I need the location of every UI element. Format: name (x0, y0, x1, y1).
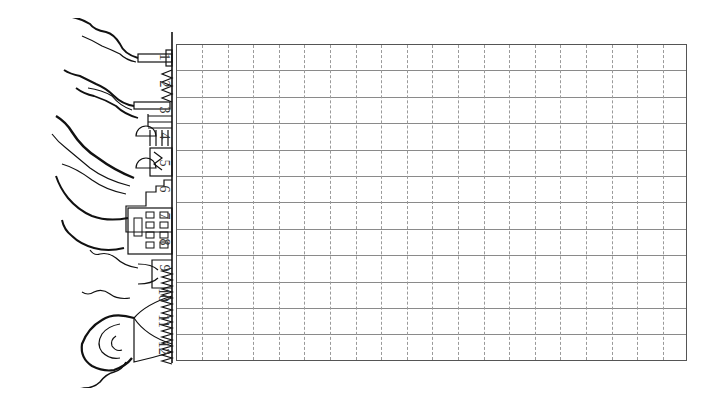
column-line (612, 45, 613, 360)
column-line (432, 45, 433, 360)
column-line (304, 45, 305, 360)
row-number-label: 10 (150, 282, 176, 308)
column-line (509, 45, 510, 360)
column-line (279, 45, 280, 360)
row-number-label: 7 (150, 202, 176, 228)
row-number-label: 11 (150, 308, 176, 334)
column-line (407, 45, 408, 360)
column-line (253, 45, 254, 360)
column-line (458, 45, 459, 360)
writing-grid (176, 44, 687, 361)
row-number-label: 2 (150, 70, 176, 96)
column-line (484, 45, 485, 360)
column-line (330, 45, 331, 360)
column-line (202, 45, 203, 360)
row-number-label: 3 (150, 97, 176, 123)
column-line (381, 45, 382, 360)
row-number-label: 12 (150, 334, 176, 360)
row-number-label: 4 (150, 123, 176, 149)
row-number-label: 9 (150, 255, 176, 281)
column-line (663, 45, 664, 360)
column-line (356, 45, 357, 360)
row-number-label: 5 (150, 150, 176, 176)
column-line (586, 45, 587, 360)
column-line (535, 45, 536, 360)
row-number-label: 1 (150, 44, 176, 70)
column-line (560, 45, 561, 360)
row-number-label: 6 (150, 176, 176, 202)
column-line (228, 45, 229, 360)
column-line (637, 45, 638, 360)
row-number-label: 8 (150, 229, 176, 255)
